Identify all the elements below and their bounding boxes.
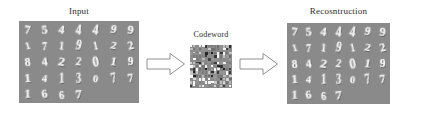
- digit-cell: 7: [19, 21, 36, 37]
- codeword-cell: [205, 68, 207, 70]
- codeword-cell: [214, 48, 216, 51]
- codeword-cell: [190, 85, 192, 87]
- digit-glyph: 9: [335, 40, 343, 54]
- digit-cell: 2: [331, 55, 346, 71]
- digit-cell: 9: [331, 39, 346, 55]
- digit-cell: 0: [346, 72, 361, 88]
- codeword-cell: [205, 71, 207, 74]
- digit-glyph: 2: [109, 40, 118, 52]
- digit-glyph: 4: [335, 24, 342, 39]
- digit-cell: 9: [70, 37, 87, 53]
- codeword-cell: [205, 85, 207, 88]
- codeword-cell: [214, 45, 216, 48]
- digit-cell: 4: [70, 21, 87, 37]
- input-digit-grid: 75444991719122842201914130771667: [19, 21, 139, 103]
- digit-glyph: 0: [350, 74, 356, 85]
- codeword-cell: [190, 62, 192, 65]
- digit-cell: 3: [70, 70, 87, 86]
- codeword-panel-label: Codeword: [186, 30, 236, 39]
- figure-canvas: Input 75444991719122842201914130771667 C…: [0, 0, 422, 119]
- codeword-cell: [193, 68, 195, 70]
- digit-cell: 1: [361, 55, 376, 71]
- digit-glyph: 1: [24, 72, 31, 85]
- digit-glyph: 2: [57, 55, 66, 69]
- digit-cell: 7: [287, 23, 302, 39]
- digit-cell: 7: [361, 72, 376, 88]
- digit-cell: 4: [316, 23, 331, 39]
- digit-glyph: 1: [321, 41, 327, 54]
- digit-cell: 1: [316, 72, 331, 88]
- codeword-cell: [202, 55, 204, 57]
- digit-cell: 2: [70, 54, 87, 70]
- digit-glyph: 6: [59, 88, 65, 101]
- codeword-cell: [193, 45, 195, 47]
- codeword-cell: [196, 85, 198, 87]
- digit-glyph: 4: [320, 25, 328, 37]
- digit-cell: 1: [287, 39, 302, 55]
- codeword-cell: [205, 62, 207, 64]
- digit-cell: 1: [53, 37, 70, 53]
- digit-glyph: 1: [350, 41, 357, 53]
- codeword-cell: [196, 81, 198, 83]
- digit-glyph: 4: [41, 73, 47, 84]
- digit-cell: 7: [331, 88, 346, 104]
- codeword-cell: [214, 52, 216, 54]
- digit-glyph: 1: [24, 89, 30, 101]
- digit-cell: 6: [53, 87, 70, 103]
- codeword-cell: [229, 75, 232, 77]
- digit-cell: 2: [316, 55, 331, 71]
- digit-glyph: 7: [24, 23, 30, 36]
- codeword-cell: [211, 45, 213, 47]
- codeword-cell: [208, 75, 210, 77]
- digit-cell: 0: [346, 55, 361, 71]
- digit-cell: 2: [375, 39, 390, 55]
- codeword-cell: [220, 78, 222, 80]
- digit-cell: 0: [88, 70, 105, 86]
- codeword-cell: [196, 52, 198, 54]
- codeword-cell: [211, 68, 213, 71]
- digit-cell: 1: [316, 39, 331, 55]
- encode-arrow: [146, 52, 186, 76]
- digit-cell: 7: [36, 37, 53, 53]
- digit-cell: 1: [19, 87, 36, 103]
- digit-cell: 1: [287, 72, 302, 88]
- digit-cell: 3: [331, 72, 346, 88]
- digit-glyph: 4: [349, 24, 357, 39]
- digit-cell: [346, 88, 361, 104]
- codeword-panel: [190, 45, 232, 88]
- codeword-cell: [208, 78, 210, 80]
- digit-glyph: 8: [24, 55, 31, 68]
- digit-cell: 7: [375, 72, 390, 88]
- digit-cell: 4: [36, 54, 53, 70]
- digit-cell: 4: [53, 21, 70, 37]
- digit-glyph: 7: [306, 41, 311, 54]
- codeword-cell: [211, 52, 213, 54]
- digit-cell: 4: [36, 70, 53, 86]
- digit-cell: 2: [361, 39, 376, 55]
- codeword-cell: [193, 62, 195, 64]
- codeword-cell: [208, 55, 210, 57]
- codeword-cell: [199, 45, 201, 47]
- codeword-cell: [223, 45, 225, 48]
- digit-cell: 4: [302, 55, 317, 71]
- codeword-cell: [196, 75, 198, 77]
- digit-cell: 1: [105, 54, 122, 70]
- digit-cell: 9: [375, 23, 390, 39]
- codeword-cell: [208, 52, 210, 54]
- codeword-cell: [226, 48, 228, 50]
- codeword-cell: [217, 71, 219, 73]
- codeword-cell: [202, 52, 204, 54]
- codeword-cell: [226, 85, 228, 87]
- codeword-cell: [223, 78, 225, 80]
- digit-cell: 8: [287, 55, 302, 71]
- codeword-cell: [223, 68, 225, 70]
- digit-glyph: 4: [75, 22, 82, 37]
- digit-glyph: 7: [335, 89, 343, 102]
- codeword-cell: [205, 55, 207, 57]
- digit-glyph: 0: [349, 56, 358, 71]
- digit-glyph: 7: [42, 39, 47, 52]
- codeword-cell: [199, 81, 201, 83]
- codeword-cell: [223, 71, 225, 73]
- codeword-cell: [229, 52, 232, 54]
- digit-glyph: 9: [128, 55, 134, 68]
